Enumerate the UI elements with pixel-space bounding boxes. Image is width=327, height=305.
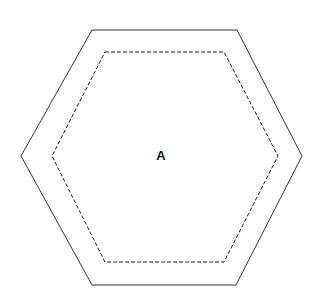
region-label-a: A (156, 149, 165, 162)
hexagon-diagram-canvas: A (0, 0, 327, 305)
